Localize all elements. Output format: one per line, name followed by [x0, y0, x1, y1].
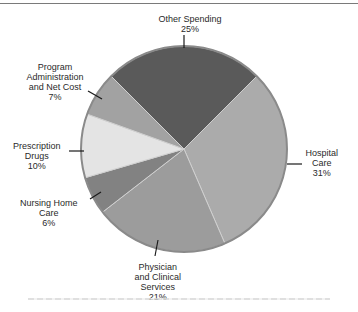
slice-name-line: Nursing Home — [20, 198, 78, 208]
slice-percent: 10% — [13, 161, 61, 171]
slice-name-line: Administration — [27, 72, 84, 82]
slice-name-line: Drugs — [13, 151, 61, 161]
slice-label: Other Spending25% — [159, 14, 222, 34]
slice-label: Nursing HomeCare6% — [20, 198, 78, 228]
footnote-line — [28, 298, 330, 300]
slice-name-line: and Clinical — [135, 272, 182, 282]
slice-name-line: Services — [135, 282, 182, 292]
slice-percent: 25% — [159, 24, 222, 34]
slice-name-line: Care — [306, 158, 339, 168]
slice-percent: 21% — [135, 292, 182, 302]
slice-label: ProgramAdministrationand Net Cost7% — [27, 62, 84, 102]
slice-label: HospitalCare31% — [306, 148, 339, 178]
pie-slices — [81, 46, 287, 252]
slice-percent: 7% — [27, 92, 84, 102]
slice-name-line: Care — [20, 208, 78, 218]
slice-name-line: Program — [27, 62, 84, 72]
slice-name-line: and Net Cost — [27, 82, 84, 92]
slice-percent: 31% — [306, 168, 339, 178]
slice-label: PrescriptionDrugs10% — [13, 141, 61, 171]
slice-name-line: Physician — [135, 262, 182, 272]
slice-name-line: Other Spending — [159, 14, 222, 24]
slice-name-line: Hospital — [306, 148, 339, 158]
slice-percent: 6% — [20, 218, 78, 228]
slice-label: Physicianand ClinicalServices21% — [135, 262, 182, 302]
slice-name-line: Prescription — [13, 141, 61, 151]
